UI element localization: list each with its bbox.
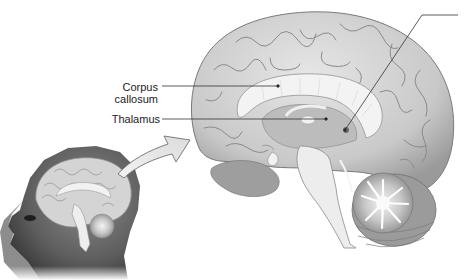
leader-dot-thalamus	[325, 118, 328, 121]
label-corpus-callosum-line-2: callosum	[112, 93, 158, 105]
label-corpus-callosum-line-1: Corpus	[112, 81, 158, 93]
head-profile-inset	[0, 146, 140, 280]
label-corpus-callosum: Corpus callosum	[112, 81, 158, 105]
label-thalamus: Thalamus	[106, 113, 160, 125]
brain-sagittal-section	[191, 12, 453, 248]
leader-dot-corpus-callosum	[277, 85, 280, 88]
cerebellum	[352, 173, 436, 247]
diagram-canvas	[0, 0, 466, 280]
thalamus-interthalamic-adhesion	[301, 116, 315, 124]
leader-dot-top-right	[344, 129, 347, 132]
eye	[24, 215, 36, 221]
inset-cerebellum	[90, 214, 114, 238]
brain-diagram: Corpus callosum Thalamus	[0, 0, 466, 280]
zoom-arrow	[118, 136, 190, 178]
label-thalamus-text: Thalamus	[106, 113, 160, 125]
